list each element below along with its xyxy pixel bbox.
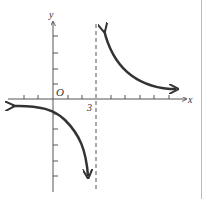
- frame-border: [201, 0, 202, 199]
- curve-left-branch: [12, 106, 88, 176]
- y-ticks: [53, 36, 58, 176]
- origin-label: O: [56, 86, 64, 98]
- asymptote-tick-label: 3: [86, 102, 92, 113]
- x-axis-label: x: [187, 94, 193, 105]
- graph-svg: y x O 3: [0, 0, 205, 199]
- graph-figure: y x O 3: [0, 0, 205, 199]
- y-axis-label: y: [48, 9, 54, 20]
- curve-right-branch: [104, 30, 176, 89]
